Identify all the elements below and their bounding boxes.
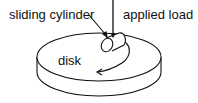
pin-on-disk-diagram: sliding cylinder applied load disk	[0, 0, 198, 103]
label-disk: disk	[58, 53, 82, 68]
disk-body	[37, 33, 161, 96]
label-applied-load: applied load	[123, 7, 193, 22]
label-sliding-cylinder: sliding cylinder	[9, 7, 95, 22]
